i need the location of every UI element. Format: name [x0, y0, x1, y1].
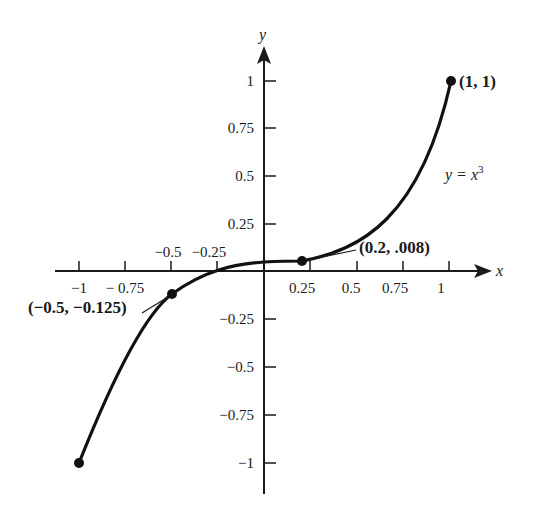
- point-1-1: [446, 76, 456, 86]
- x-tick-label: 0.5: [342, 280, 361, 296]
- y-tick-label: 1: [247, 73, 255, 89]
- x-tick-label: −0.25: [192, 244, 227, 260]
- y-tick-label: 0.25: [228, 216, 254, 232]
- y-tick-label: −1: [238, 455, 254, 471]
- x-tick-label: 0.75: [382, 280, 408, 296]
- curve-equation-label: y = x3: [443, 163, 484, 184]
- y-tick-label: −0.75: [219, 407, 254, 423]
- y-tick-label: 0.5: [235, 168, 254, 184]
- x-tick-label: 1: [437, 280, 445, 296]
- cubic-function-graph: x y −1 − 0.75 −0.5 −0.25 0.25 0.5 0.75 1…: [0, 0, 536, 518]
- point-label-1-1: (1, 1): [459, 72, 496, 91]
- point-02: [297, 256, 307, 266]
- y-axis-label: y: [257, 26, 267, 44]
- x-axis-label: x: [495, 262, 503, 279]
- point-label-neg05: (−0.5, −0.125): [28, 298, 127, 317]
- curve-equation-text: y = x: [443, 166, 478, 184]
- y-tick-label: 0.75: [228, 120, 254, 136]
- x-tick-label: −1: [71, 280, 87, 296]
- x-tick-label: 0.25: [289, 280, 315, 296]
- point-neg05: [167, 289, 177, 299]
- x-tick-label: −0.5: [154, 244, 181, 260]
- x-tick-label: − 0.75: [106, 280, 144, 296]
- y-tick-label: −0.5: [227, 359, 254, 375]
- point-label-02: (0.2, .008): [359, 238, 430, 257]
- curve-equation-exponent: 3: [478, 163, 484, 175]
- y-tick-label: −0.25: [219, 311, 254, 327]
- point-neg1-neg1: [74, 458, 84, 468]
